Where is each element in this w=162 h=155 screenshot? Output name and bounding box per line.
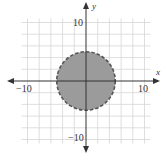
y-tick-label-neg10: −10	[68, 132, 84, 143]
x-tick-label-10: 10	[138, 83, 148, 94]
y-axis-label: y	[91, 1, 96, 11]
x-axis-label: x	[155, 67, 160, 77]
y-tick-label-10: 10	[73, 17, 83, 28]
x-tick-label-neg10: −10	[16, 83, 32, 94]
coordinate-plane: x y −10 10 10 −10	[0, 0, 162, 155]
